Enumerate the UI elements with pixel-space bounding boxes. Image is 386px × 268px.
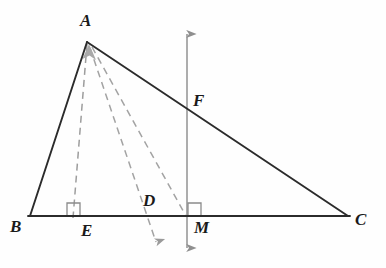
label-M: M xyxy=(194,219,209,236)
label-E: E xyxy=(81,222,92,239)
label-C: C xyxy=(355,211,366,228)
right-angle-at-M xyxy=(188,203,201,216)
label-A: A xyxy=(80,12,91,29)
geometry-figure: A B C D E F M xyxy=(0,0,386,268)
label-F: F xyxy=(193,92,204,109)
label-D: D xyxy=(143,192,155,209)
side-AB xyxy=(30,42,87,216)
label-B: B xyxy=(10,218,21,235)
side-AC xyxy=(87,42,348,216)
geometry-canvas xyxy=(0,0,386,268)
altitude-AE xyxy=(73,44,87,218)
triangle-ABC xyxy=(28,42,350,216)
